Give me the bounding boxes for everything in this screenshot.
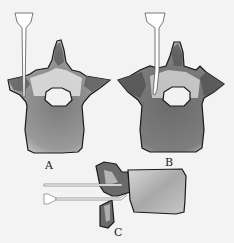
panel-b-vertebra (118, 42, 224, 152)
vertebra-diagram: A B C (0, 0, 234, 243)
diagram-graphics (0, 0, 234, 243)
label-b: B (165, 156, 173, 169)
panel-c-vertebra (96, 162, 186, 228)
label-a: A (45, 159, 53, 172)
label-c: C (114, 226, 122, 239)
